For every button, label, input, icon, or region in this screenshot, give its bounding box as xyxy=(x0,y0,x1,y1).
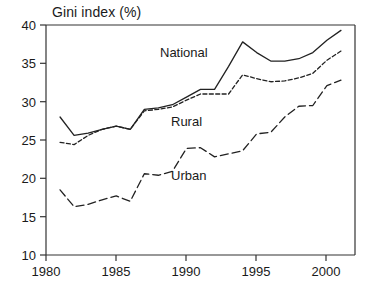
y-tick-label-15: 15 xyxy=(2,210,36,225)
series-line-urban xyxy=(60,80,341,207)
x-tick-label-1985: 1985 xyxy=(91,264,141,279)
x-axis-ticks xyxy=(46,255,326,261)
series-line-rural xyxy=(60,51,341,145)
y-tick-label-35: 35 xyxy=(2,56,36,71)
y-axis-ticks xyxy=(40,25,46,255)
y-tick-label-20: 20 xyxy=(2,171,36,186)
x-tick-label-1995: 1995 xyxy=(231,264,281,279)
x-tick-label-1990: 1990 xyxy=(161,264,211,279)
x-tick-label-1980: 1980 xyxy=(21,264,71,279)
y-tick-label-10: 10 xyxy=(2,248,36,263)
series-label-rural: Rural xyxy=(171,114,202,129)
series-label-urban: Urban xyxy=(171,168,206,183)
gini-index-line-chart: Gini index (%) 40 35 30 25 20 15 xyxy=(0,0,372,298)
x-tick-label-2000: 2000 xyxy=(301,264,351,279)
series-label-national: National xyxy=(160,45,208,60)
y-tick-label-30: 30 xyxy=(2,95,36,110)
y-tick-label-40: 40 xyxy=(2,18,36,33)
y-tick-label-25: 25 xyxy=(2,133,36,148)
